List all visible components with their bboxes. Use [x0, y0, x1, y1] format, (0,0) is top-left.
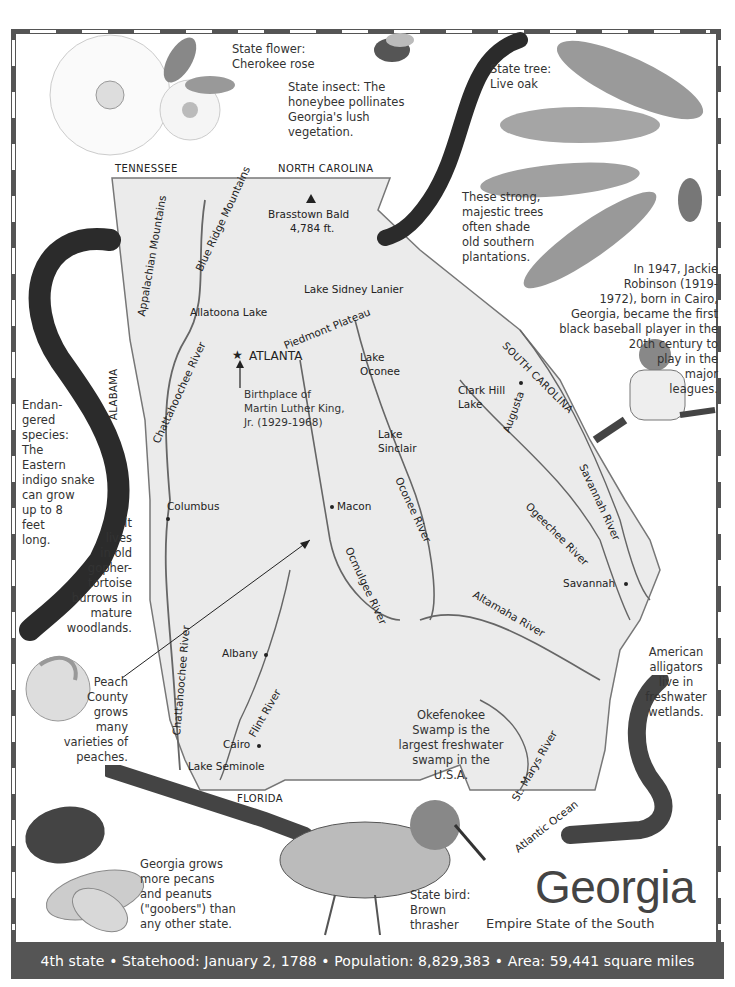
cherokee-rose-illustration — [20, 25, 250, 165]
label-lake-sidney-lanier: Lake Sidney Lanier — [304, 283, 403, 295]
note-state-insect: State insect: The honeybee pollinates Ge… — [288, 80, 404, 140]
note-state-bird: State bird: Brown thrasher — [410, 888, 470, 933]
label-atlanta: ATLANTA — [249, 349, 302, 363]
label-allatoona-lake: Allatoona Lake — [190, 306, 267, 318]
label-lake-oconee: Lake Oconee — [360, 350, 410, 378]
label-cairo: Cairo — [223, 738, 250, 750]
label-alabama: ALABAMA — [108, 369, 119, 420]
page-title: Georgia — [535, 860, 695, 914]
label-tennessee: TENNESSEE — [115, 163, 178, 174]
label-lake-seminole: Lake Seminole — [188, 760, 265, 772]
label-north-carolina: NORTH CAROLINA — [278, 163, 373, 174]
page-subtitle: Empire State of the South — [486, 916, 654, 931]
label-albany: Albany — [222, 647, 258, 659]
label-savannah: Savannah — [563, 577, 615, 589]
label-florida: FLORIDA — [237, 793, 283, 804]
label-clark-hill-lake: Clark Hill Lake — [458, 383, 508, 411]
city-dot-macon — [330, 505, 334, 509]
label-columbus: Columbus — [167, 500, 219, 512]
note-okefenokee: Okefenokee Swamp is the largest freshwat… — [392, 708, 510, 783]
note-pecans-peanuts: Georgia grows more pecans and peanuts ("… — [140, 857, 236, 932]
label-brasstown-bald: Brasstown Bald — [268, 208, 349, 220]
label-brasstown-elevation: 4,784 ft. — [290, 222, 334, 234]
label-macon: Macon — [337, 500, 371, 512]
note-state-flower: State flower: Cherokee rose — [232, 42, 315, 72]
city-dot-cairo — [257, 744, 261, 748]
facts-footer: 4th state • Statehood: January 2, 1788 •… — [11, 942, 724, 979]
note-live-oak: These strong, majestic trees often shade… — [462, 190, 543, 265]
note-peach-county: Peach County grows many varieties of pea… — [42, 675, 128, 765]
note-snake-habitat: It lives in old gopher- tortoise burrows… — [62, 516, 132, 636]
honeybee-illustration — [362, 25, 422, 75]
city-dot-savannah — [624, 582, 628, 586]
city-dot-albany — [264, 653, 268, 657]
note-mlk-birthplace: Birthplace of Martin Luther King, Jr. (1… — [244, 387, 345, 429]
note-state-tree: State tree: Live oak — [490, 62, 551, 92]
note-jackie-robinson: In 1947, Jackie Robinson (1919- 1972), b… — [518, 262, 718, 397]
city-dot-columbus — [166, 517, 170, 521]
label-lake-sinclair: Lake Sinclair — [378, 427, 428, 455]
note-alligators: American alligators live in freshwater w… — [636, 645, 716, 720]
